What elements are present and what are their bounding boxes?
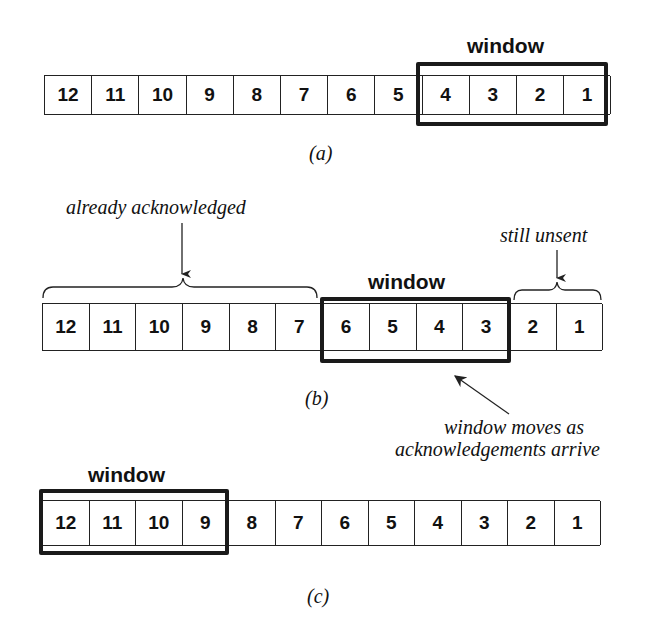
acknowledged-brace-icon <box>43 223 317 298</box>
window-moves-arrow-icon <box>455 376 509 414</box>
annotation-overlay <box>0 0 667 643</box>
unsent-brace-icon <box>514 250 601 300</box>
sliding-window-diagram: window 12 11 10 9 8 7 6 5 4 3 2 1 (a) al… <box>0 0 667 643</box>
